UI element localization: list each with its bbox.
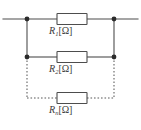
resistor-label-r2-unit: [Ω] [59, 63, 73, 74]
resistor-label-rn: Rn[Ω] [49, 105, 72, 115]
resistor-label-rn-subscript: n [55, 109, 58, 116]
resistor-label-r1-unit: [Ω] [59, 25, 73, 36]
node-dot-top-right [112, 17, 117, 22]
resistor-symbol-r1 [57, 14, 87, 25]
resistor-label-rn-unit: [Ω] [59, 104, 73, 115]
node-dot-mid-left [25, 55, 30, 60]
resistor-symbol-r2 [57, 52, 87, 63]
resistor-label-r1: R1[Ω] [49, 26, 72, 36]
resistor-label-r1-subscript: 1 [55, 30, 58, 37]
node-dot-top-left [25, 17, 30, 22]
resistor-symbol-rn [57, 93, 87, 104]
resistor-label-r2-subscript: 2 [55, 68, 58, 75]
circuit-diagram: R1[Ω] R2[Ω] Rn[Ω] [0, 0, 141, 130]
resistor-label-r2: R2[Ω] [49, 64, 72, 74]
node-dot-mid-right [112, 55, 117, 60]
